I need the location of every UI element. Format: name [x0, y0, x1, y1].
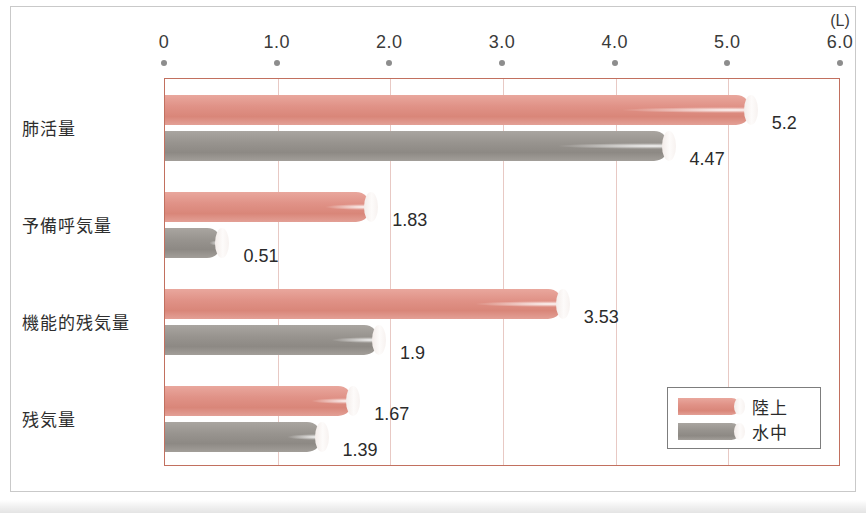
- bar-cap-icon: [346, 386, 360, 416]
- bar-value-water-0: 4.47: [690, 148, 725, 169]
- bar-water-2: [165, 325, 379, 355]
- page-edge-shadow: [0, 500, 866, 513]
- chart-figure: 01.02.03.04.05.06.0(L) 陸上 水中 肺活量5.24.47予…: [0, 0, 866, 513]
- bar-value-land-1: 1.83: [392, 209, 427, 230]
- legend-swatch-land-icon: [678, 398, 740, 415]
- legend-label-land: 陸上: [752, 394, 788, 419]
- bar-value-water-3: 1.39: [343, 439, 378, 460]
- x-tick-label-6: 6.0: [827, 32, 854, 53]
- x-tick-dot-6: [837, 60, 843, 66]
- bar-cap-icon: [734, 423, 745, 440]
- bar-cap-icon: [556, 289, 570, 319]
- category-label-0: 肺活量: [22, 114, 76, 139]
- bar-value-water-1: 0.51: [243, 245, 278, 266]
- x-tick-dot-5: [724, 60, 730, 66]
- x-tick-label-3: 3.0: [489, 32, 516, 53]
- legend-swatch-water-icon: [678, 423, 740, 440]
- bar-cap-icon: [734, 398, 745, 415]
- x-tick-label-4: 4.0: [601, 32, 628, 53]
- legend-label-water: 水中: [752, 419, 788, 444]
- category-label-2: 機能的残気量: [22, 308, 130, 333]
- x-tick-label-0: 0: [159, 32, 170, 53]
- bar-land-3: [165, 386, 353, 416]
- bar-cap-icon: [372, 325, 386, 355]
- x-tick-label-1: 1.0: [263, 32, 290, 53]
- bar-value-land-3: 1.67: [374, 403, 409, 424]
- axis-unit-label: (L): [830, 12, 850, 30]
- bar-cap-icon: [315, 422, 329, 452]
- x-tick-label-5: 5.0: [714, 32, 741, 53]
- category-label-3: 残気量: [22, 405, 76, 430]
- legend-item-water: 水中: [678, 420, 812, 442]
- bar-land-2: [165, 289, 563, 319]
- bar-land-1: [165, 192, 371, 222]
- category-label-1: 予備呼気量: [22, 211, 112, 236]
- bar-value-land-2: 3.53: [584, 306, 619, 327]
- bar-water-3: [165, 422, 322, 452]
- bar-cap-icon: [364, 192, 378, 222]
- x-tick-dot-2: [386, 60, 392, 66]
- x-tick-dot-0: [161, 60, 167, 66]
- bar-cap-icon: [662, 131, 676, 161]
- chart-legend: 陸上 水中: [667, 387, 821, 449]
- x-tick-label-2: 2.0: [376, 32, 403, 53]
- bar-value-land-0: 5.2: [772, 112, 797, 133]
- legend-item-land: 陸上: [678, 395, 812, 417]
- bar-land-0: [165, 95, 751, 125]
- x-tick-dot-4: [612, 60, 618, 66]
- bar-value-water-2: 1.9: [400, 342, 425, 363]
- bar-cap-icon: [744, 95, 758, 125]
- x-tick-dot-1: [274, 60, 280, 66]
- bar-water-0: [165, 131, 669, 161]
- bar-water-1: [165, 228, 222, 258]
- bar-cap-icon: [215, 228, 229, 258]
- x-tick-dot-3: [499, 60, 505, 66]
